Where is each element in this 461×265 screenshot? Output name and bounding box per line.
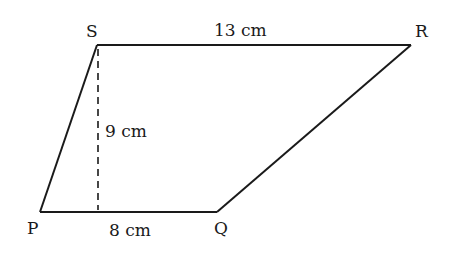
side-ps: [40, 45, 97, 212]
measurement-height-label: 9 cm: [105, 123, 147, 140]
trapezium-diagram: S R P Q 13 cm 9 cm 8 cm: [0, 0, 461, 265]
vertex-label-q: Q: [214, 220, 228, 237]
measurement-pq-label: 8 cm: [109, 222, 151, 239]
measurement-sr-label: 13 cm: [214, 22, 267, 39]
vertex-label-r: R: [415, 23, 428, 40]
side-rq: [217, 45, 411, 212]
vertex-label-p: P: [27, 220, 38, 237]
vertex-label-s: S: [86, 23, 98, 40]
